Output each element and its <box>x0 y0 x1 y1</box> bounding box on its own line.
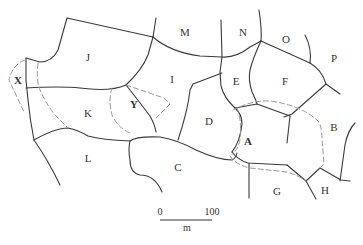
parcel-label-h: H <box>321 184 329 196</box>
parcel-label-p: P <box>331 52 337 64</box>
parcel-label-a: A <box>244 135 252 147</box>
parcel-label-k: K <box>84 107 92 119</box>
parcel-label-c: C <box>174 161 181 173</box>
parcel-label-e: E <box>233 75 240 87</box>
scale-end-label: 100 <box>205 206 220 217</box>
dashed-overlay-boundaries <box>9 60 324 181</box>
parcel-map: A B C D E F G H I J K L M N O P X Y 0 10… <box>0 0 363 245</box>
parcel-label-j: J <box>86 51 91 63</box>
scale-unit-label: m <box>183 222 191 233</box>
parcel-label-l: L <box>85 152 92 164</box>
scale-start-label: 0 <box>158 206 163 217</box>
scale-bar: 0 100 m <box>158 206 220 233</box>
parcel-label-f: F <box>282 75 288 87</box>
parcel-label-b: B <box>330 121 337 133</box>
parcel-label-d: D <box>205 115 213 127</box>
parcel-label-n: N <box>239 26 247 38</box>
parcel-boundaries <box>26 10 355 199</box>
parcel-label-g: G <box>273 185 281 197</box>
parcel-label-i: I <box>170 73 174 85</box>
parcel-label-o: O <box>282 33 290 45</box>
parcel-label-m: M <box>180 26 190 38</box>
parcel-label-x: X <box>14 74 22 86</box>
parcel-labels: A B C D E F G H I J K L M N O P X Y <box>14 26 338 197</box>
parcel-label-y: Y <box>130 98 138 110</box>
